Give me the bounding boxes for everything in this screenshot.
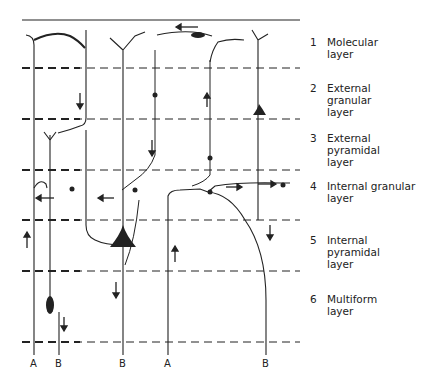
fiber-label-b-left: B: [55, 358, 62, 369]
fiber-a-left: [26, 34, 85, 355]
fiber-a-center: [168, 183, 290, 355]
fiber-label-b-center: B: [119, 358, 126, 369]
fiber-b-right: [210, 30, 268, 355]
stellate-cell-layer6: [46, 296, 54, 314]
fiber-b-center: [86, 32, 145, 355]
fiber-label-a-center: A: [164, 358, 171, 369]
pyramidal-cell-layer3: [253, 104, 266, 115]
fiber-label-a-left: A: [30, 358, 37, 369]
pyramidal-cell-layer5: [110, 225, 136, 247]
fiber-label-b-right: B: [262, 358, 269, 369]
direction-arrows: [24, 24, 276, 331]
